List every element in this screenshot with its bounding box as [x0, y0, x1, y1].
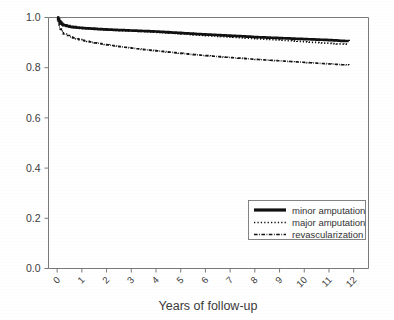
x-tick-label: 6	[199, 274, 211, 286]
survival-curve-figure: 0.00.20.40.60.81.0 0123456789101112 Year…	[0, 0, 394, 320]
x-tick-label: 9	[273, 274, 285, 286]
y-tick-label: 0.2	[26, 212, 41, 224]
legend-label-minor-amputation: minor amputation	[292, 205, 365, 216]
y-axis-ticks: 0.00.20.40.60.81.0	[26, 11, 49, 274]
x-tick-label: 5	[174, 274, 186, 286]
chart-legend: minor amputation major amputation revasc…	[249, 201, 366, 241]
y-tick-label: 0.0	[26, 262, 41, 274]
x-tick-label: 4	[149, 274, 161, 286]
x-tick-label: 11	[319, 274, 334, 289]
y-tick-label: 0.6	[26, 112, 41, 124]
x-tick-label: 7	[224, 274, 236, 286]
legend-label-revascularization: revascularization	[292, 229, 363, 240]
x-axis-title: Years of follow-up	[159, 299, 258, 313]
x-tick-label: 10	[294, 274, 309, 289]
x-tick-label: 0	[51, 274, 63, 286]
x-tick-label: 12	[343, 274, 358, 289]
x-tick-label: 1	[75, 274, 87, 286]
x-axis-ticks: 0123456789101112	[51, 269, 359, 290]
y-tick-label: 0.8	[26, 61, 41, 73]
curves-group	[57, 18, 349, 65]
x-tick-label: 8	[248, 274, 260, 286]
y-tick-label: 1.0	[26, 11, 41, 23]
kaplan-meier-chart: 0.00.20.40.60.81.0 0123456789101112 Year…	[0, 0, 394, 320]
y-tick-label: 0.4	[26, 162, 41, 174]
legend-label-major-amputation: major amputation	[292, 217, 365, 228]
curve-revascularization	[57, 18, 349, 65]
x-tick-label: 3	[125, 274, 137, 286]
x-tick-label: 2	[100, 274, 112, 286]
